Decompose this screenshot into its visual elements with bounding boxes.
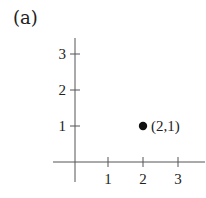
y-tick-label: 3: [59, 46, 67, 62]
x-tick-label: 1: [104, 171, 112, 187]
y-ticks: 1 2 3: [59, 46, 81, 134]
chart: 1 2 3 1 2 3 (2,1): [0, 0, 206, 198]
x-tick-label: 3: [174, 171, 182, 187]
y-tick-label: 1: [59, 118, 67, 134]
x-tick-label: 2: [139, 171, 147, 187]
data-point-label: (2,1): [151, 118, 180, 135]
data-point: [139, 122, 147, 130]
y-tick-label: 2: [59, 82, 67, 98]
